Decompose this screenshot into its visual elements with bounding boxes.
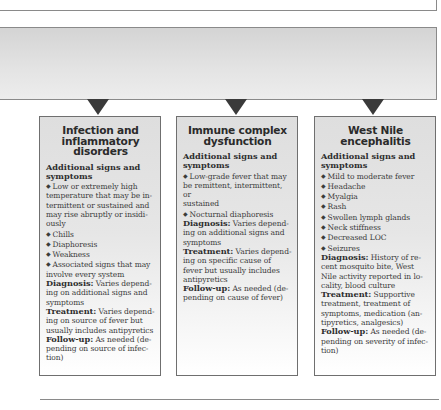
bullet-diamond-icon: ◆	[183, 172, 188, 179]
diagnosis-label: Diagnosis:	[183, 218, 231, 228]
treatment-label: Treatment:	[46, 306, 96, 316]
bullet-item-line: ◆Low-grade fever that may	[183, 171, 292, 181]
bullet-item-line: be remittent, intermittent, or	[183, 181, 292, 200]
follow-up-label: Follow-up:	[321, 326, 368, 336]
follow-up-text: As needed (de-	[368, 327, 426, 336]
bullet-item-line: ◆Myalgia	[321, 191, 430, 201]
bullet-text: Neck stiffness	[328, 223, 381, 232]
bullet-text: ously	[46, 219, 66, 228]
bullet-item-line: ◆Associated signs that may	[46, 259, 155, 269]
bullet-item-line: ◆Neck stiffness	[321, 222, 430, 232]
diagnosis-line: Diagnosis: Varies depend-	[46, 279, 155, 288]
section-heading: symptoms	[321, 161, 430, 170]
card-infection-inflammatory: Infection andinflammatorydisordersAdditi…	[39, 116, 161, 376]
bullet-item-line: ◆Rash	[321, 201, 430, 211]
bullet-diamond-icon: ◆	[46, 260, 51, 267]
treatment-line: fever but usually includes	[183, 266, 292, 275]
follow-up-text: pending on cause of fever)	[183, 293, 283, 302]
bullet-diamond-icon: ◆	[321, 192, 326, 199]
diagnosis-label: Diagnosis:	[46, 278, 94, 288]
bullet-diamond-icon: ◆	[321, 244, 326, 251]
bullet-text: Diaphoresis	[53, 240, 98, 249]
treatment-line: Treatment: Varies depend-	[46, 307, 155, 316]
bullet-diamond-icon: ◆	[46, 182, 51, 189]
treatment-line: ing on source of fever but	[46, 316, 155, 325]
treatment-text: treatment, treatment of	[321, 299, 410, 308]
section-heading: symptoms	[46, 172, 155, 181]
treatment-line: Treatment: Supportive	[321, 290, 430, 299]
bullet-text: Myalgia	[328, 192, 358, 201]
follow-up-text: tion)	[46, 353, 63, 362]
bottom-divider	[40, 399, 439, 400]
bullet-text: Swollen lymph glands	[328, 213, 410, 222]
bullet-text: Mild to moderate fever	[328, 172, 415, 181]
bullet-text: termittent or sustained and	[46, 201, 149, 210]
parent-flowchart-banner	[0, 27, 437, 100]
treatment-text: symptoms, medication (an-	[321, 309, 422, 318]
treatment-text: ing on source of fever but	[46, 316, 143, 325]
bullet-text: Headache	[328, 182, 366, 191]
treatment-label: Treatment:	[321, 289, 371, 299]
follow-up-line: pending on source of infec-	[46, 344, 155, 353]
bullet-diamond-icon: ◆	[321, 202, 326, 209]
treatment-line: treatment, treatment of	[321, 299, 430, 308]
follow-up-line: tion)	[46, 353, 155, 362]
bullet-item-line: termittent or sustained and	[46, 201, 155, 210]
diagnosis-line: Nile activity reported in lo-	[321, 272, 430, 281]
bullet-text: Associated signs that may	[53, 260, 151, 269]
bullet-item-line: ◆Decreased LOC	[321, 232, 430, 242]
bullet-diamond-icon: ◆	[321, 182, 326, 189]
card-title-line: disorders	[46, 146, 155, 157]
down-arrow-icon	[87, 99, 109, 115]
bullet-item-line: ◆Mild to moderate fever	[321, 171, 430, 181]
bullet-text: sustained	[183, 199, 219, 208]
card-west-nile: West NileencephalitisAdditional signs an…	[314, 116, 436, 376]
bullet-diamond-icon: ◆	[321, 213, 326, 220]
treatment-text: Varies depend-	[233, 247, 291, 256]
diagnosis-line: ing on additional signs and	[46, 288, 155, 297]
diagnosis-line: cent mosquito bite, West	[321, 262, 430, 271]
diagnosis-text: Varies depend-	[231, 219, 289, 228]
bullet-item-line: ◆Headache	[321, 181, 430, 191]
treatment-line: Treatment: Varies depend-	[183, 247, 292, 256]
bullet-item-line: ously	[46, 219, 155, 228]
bullet-text: Weakness	[53, 250, 90, 259]
bullet-diamond-icon: ◆	[321, 172, 326, 179]
follow-up-line: tion)	[321, 346, 430, 355]
bullet-item-line: may rise abruptly or insidi-	[46, 210, 155, 219]
bullet-text: Rash	[328, 202, 347, 211]
follow-up-text: tion)	[321, 346, 338, 355]
diagnosis-label: Diagnosis:	[321, 252, 369, 262]
section-heading: symptoms	[183, 161, 292, 170]
treatment-label: Treatment:	[183, 246, 233, 256]
down-arrow-icon	[225, 99, 247, 115]
follow-up-line: pending on severity of infec-	[321, 337, 430, 346]
follow-up-line: pending on cause of fever)	[183, 293, 292, 302]
card-title: West Nileencephalitis	[321, 125, 430, 146]
bullet-diamond-icon: ◆	[46, 230, 51, 237]
diagnosis-text: cent mosquito bite, West	[321, 262, 414, 271]
bullet-text: Low or extremely high	[53, 182, 138, 191]
follow-up-text: As needed (de-	[93, 335, 151, 344]
follow-up-label: Follow-up:	[183, 283, 230, 293]
follow-up-label: Follow-up:	[46, 334, 93, 344]
diagnosis-line: Diagnosis: History of re-	[321, 253, 430, 262]
card-title: Immune complexdysfunction	[183, 125, 292, 146]
follow-up-line: Follow-up: As needed (de-	[46, 335, 155, 344]
diagnosis-text: Nile activity reported in lo-	[321, 272, 423, 281]
follow-up-text: pending on source of infec-	[46, 344, 148, 353]
bullet-text: may rise abruptly or insidi-	[46, 210, 148, 219]
card-title-line: dysfunction	[183, 136, 292, 147]
bullet-item-line: ◆Chills	[46, 229, 155, 239]
bullet-text: Chills	[53, 230, 74, 239]
follow-up-line: Follow-up: As needed (de-	[321, 327, 430, 336]
bullet-item-line: ◆Low or extremely high	[46, 181, 155, 191]
treatment-text: ing on specific cause of	[183, 256, 271, 265]
bullet-item-line: temperature that may be in-	[46, 191, 155, 200]
card-immune-complex: Immune complexdysfunctionAdditional sign…	[176, 116, 298, 376]
bullet-item-line: ◆Weakness	[46, 249, 155, 259]
bullet-text: temperature that may be in-	[46, 191, 152, 200]
treatment-line: symptoms, medication (an-	[321, 309, 430, 318]
diagnosis-line: ing on additional signs and	[183, 228, 292, 237]
diagnosis-text: ing on additional signs and	[46, 288, 148, 297]
